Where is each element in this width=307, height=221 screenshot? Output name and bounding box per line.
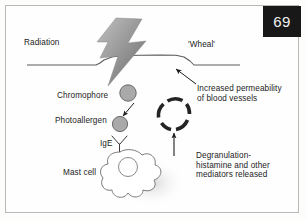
label-wheal: 'Wheal' <box>188 40 215 50</box>
label-chromophore: Chromophore <box>57 91 108 101</box>
permeability-line-2: of blood vessels <box>197 94 257 103</box>
radiation-lightning-bolt <box>97 18 146 86</box>
skin-surface-line <box>27 55 240 65</box>
degranulation-line-1: Degranulation- <box>196 151 251 160</box>
label-degranulation: Degranulation-histamine and othermediato… <box>196 151 270 180</box>
label-ige: IgE <box>100 139 113 149</box>
label-radiation: Radiation <box>24 38 60 48</box>
degranulation-line-3: mediators released <box>196 170 267 179</box>
chromophore-particle <box>120 85 136 101</box>
label-mast-cell: Mast cell <box>63 168 96 178</box>
label-increased-permeability: Increased permeabilityof blood vessels <box>197 84 282 103</box>
wheal-pointer-arrow <box>176 69 196 84</box>
blood-vessel-cross-section <box>158 99 189 130</box>
chromophore-to-photoallergen-arrow <box>123 103 134 116</box>
photoallergy-diagram-figure: Radiation 'Wheal' Increased permeability… <box>0 0 307 221</box>
mast-cell-nucleus <box>119 158 138 177</box>
degranulation-line-2: histamine and other <box>196 161 270 170</box>
page-number-badge: 69 <box>263 6 301 37</box>
diagram-graphics-layer <box>0 0 307 221</box>
label-photoallergen: Photoallergen <box>55 116 107 126</box>
permeability-line-1: Increased permeability <box>197 84 282 93</box>
photoallergen-particle <box>112 116 127 131</box>
